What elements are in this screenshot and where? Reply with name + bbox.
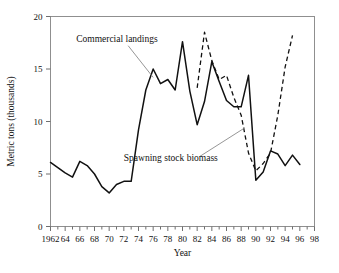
y-tick-label: 20 bbox=[34, 12, 44, 22]
y-tick-label: 10 bbox=[34, 117, 44, 127]
line-chart: 1962646668707274767880828486889092949698… bbox=[0, 0, 339, 273]
x-tick-label: 90 bbox=[251, 234, 261, 244]
y-tick-label: 0 bbox=[38, 222, 43, 232]
x-tick-label: 96 bbox=[295, 234, 305, 244]
x-tick-label: 74 bbox=[134, 234, 144, 244]
annotation-label: Spawning stock biomass bbox=[124, 153, 218, 163]
y-tick-label: 5 bbox=[38, 169, 43, 179]
x-tick-label: 92 bbox=[266, 234, 275, 244]
x-tick-label: 82 bbox=[193, 234, 202, 244]
x-tick-label: 78 bbox=[163, 234, 173, 244]
x-tick-label: 88 bbox=[237, 234, 247, 244]
x-tick-label: 64 bbox=[61, 234, 71, 244]
x-tick-label: 98 bbox=[310, 234, 320, 244]
y-axis-title: Metric tons (thousands) bbox=[6, 76, 17, 166]
plot-frame bbox=[51, 17, 315, 227]
x-tick-label: 76 bbox=[149, 234, 159, 244]
x-tick-label: 94 bbox=[281, 234, 291, 244]
x-tick-label: 68 bbox=[90, 234, 100, 244]
x-tick-label: 1962 bbox=[42, 234, 60, 244]
x-axis-title: Year bbox=[174, 248, 192, 258]
y-tick-label: 15 bbox=[34, 64, 44, 74]
x-tick-label: 86 bbox=[222, 234, 232, 244]
x-tick-label: 72 bbox=[119, 234, 128, 244]
series-line-dashed bbox=[197, 32, 292, 171]
annotation-leader-line bbox=[200, 128, 245, 157]
series-line-solid bbox=[51, 42, 300, 193]
x-tick-label: 84 bbox=[207, 234, 217, 244]
x-tick-label: 80 bbox=[178, 234, 188, 244]
annotation-label: Commercial landings bbox=[76, 34, 158, 44]
x-tick-label: 66 bbox=[75, 234, 85, 244]
chart-figure: 1962646668707274767880828486889092949698… bbox=[0, 0, 339, 273]
annotation-leader-line bbox=[128, 46, 153, 78]
x-tick-label: 70 bbox=[105, 234, 115, 244]
